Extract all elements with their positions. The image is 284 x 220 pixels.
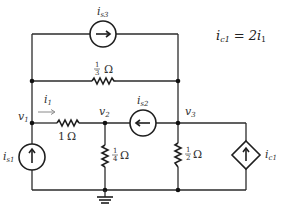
svg-text:4: 4 <box>113 155 118 163</box>
label-is3: is3 <box>97 5 109 19</box>
svg-text:Ω: Ω <box>67 130 76 143</box>
label-r13: 1 3 Ω <box>94 61 113 77</box>
current-source-is3 <box>90 21 116 47</box>
label-is2: is2 <box>137 94 149 108</box>
svg-text:Ω: Ω <box>120 149 129 162</box>
svg-text:1: 1 <box>113 147 117 155</box>
junction-v1 <box>30 121 35 126</box>
svg-text:Ω: Ω <box>193 148 202 161</box>
current-source-is2 <box>130 110 156 136</box>
junction-v3 <box>176 121 181 126</box>
junction-v1-top <box>30 79 35 84</box>
current-source-is1 <box>19 144 45 170</box>
svg-text:1: 1 <box>95 61 99 69</box>
svg-text:Ω: Ω <box>104 63 113 76</box>
current-arrow-i1 <box>38 110 55 115</box>
resistor-r1 <box>57 120 79 126</box>
ground-icon <box>97 190 113 203</box>
svg-text:3: 3 <box>95 69 99 77</box>
svg-text:1: 1 <box>186 146 190 154</box>
label-r14: 1 4 Ω <box>112 147 129 163</box>
label-ic1: ic1 <box>265 148 277 162</box>
svg-text:2: 2 <box>186 154 190 162</box>
svg-text:1: 1 <box>58 130 65 143</box>
label-r1: 1 Ω <box>58 130 76 143</box>
label-is1: is1 <box>3 150 15 164</box>
resistor-r13 <box>92 78 116 84</box>
resistor-r14 <box>102 145 108 167</box>
equation-ic1: ic1=2i1 <box>216 28 266 44</box>
dependent-source-ic1 <box>232 141 260 169</box>
label-v3: v3 <box>185 105 196 119</box>
junction-r12-bottom <box>176 188 181 193</box>
label-i1: i1 <box>44 93 52 107</box>
label-v2: v2 <box>99 105 110 119</box>
label-v1: v1 <box>18 110 29 124</box>
resistor-r12 <box>175 143 181 167</box>
junction-v2 <box>103 121 108 126</box>
circuit-diagram: is3 1 3 Ω i1 v1 v2 v3 1 Ω is2 <box>0 0 284 220</box>
label-r12: 1 2 Ω <box>185 146 202 162</box>
junction-v3-top <box>176 79 181 84</box>
